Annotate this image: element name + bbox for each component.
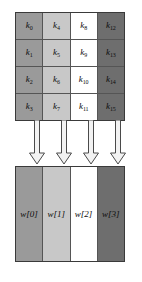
down-arrow-icon bbox=[82, 120, 100, 166]
key-cell-k1: k1 bbox=[16, 40, 42, 67]
key-cell-label: k3 bbox=[26, 102, 33, 112]
key-matrix-column-0: k0 k1 k2 k3 bbox=[16, 13, 43, 120]
key-cell-label: k7 bbox=[53, 102, 60, 112]
key-cell-label: k14 bbox=[106, 75, 116, 85]
key-cell-k9: k9 bbox=[71, 40, 97, 67]
key-matrix-column-2: k8 k9 k10 k11 bbox=[71, 13, 98, 120]
key-cell-label: k10 bbox=[79, 75, 89, 85]
key-cell-label: k0 bbox=[26, 21, 33, 31]
word-column-w0: w[0] bbox=[16, 167, 43, 261]
key-cell-label: k1 bbox=[26, 48, 33, 58]
key-cell-k12: k12 bbox=[98, 13, 124, 40]
arrow-band bbox=[15, 120, 125, 166]
word-column-w1: w[1] bbox=[43, 167, 70, 261]
key-cell-label: k6 bbox=[53, 75, 60, 85]
key-cell-k4: k4 bbox=[43, 13, 69, 40]
key-matrix-column-3: k12 k13 k14 k15 bbox=[98, 13, 124, 120]
key-cell-label: k13 bbox=[106, 48, 116, 58]
key-cell-k2: k2 bbox=[16, 67, 42, 94]
key-cell-k14: k14 bbox=[98, 67, 124, 94]
word-label: w[1] bbox=[48, 210, 66, 219]
key-cell-k13: k13 bbox=[98, 40, 124, 67]
word-label: w[2] bbox=[75, 210, 93, 219]
key-word-bar: w[0] w[1] w[2] w[3] bbox=[15, 166, 125, 262]
key-cell-k3: k3 bbox=[16, 94, 42, 120]
down-arrow-icon bbox=[55, 120, 73, 166]
key-matrix-column-1: k4 k5 k6 k7 bbox=[43, 13, 70, 120]
word-column-w2: w[2] bbox=[71, 167, 98, 261]
key-cell-label: k15 bbox=[106, 102, 116, 112]
key-cell-label: k11 bbox=[79, 102, 88, 112]
key-cell-k15: k15 bbox=[98, 94, 124, 120]
key-cell-k7: k7 bbox=[43, 94, 69, 120]
word-label: w[0] bbox=[20, 210, 38, 219]
key-cell-k10: k10 bbox=[71, 67, 97, 94]
word-column-w3: w[3] bbox=[98, 167, 124, 261]
key-cell-label: k2 bbox=[26, 75, 33, 85]
key-cell-k5: k5 bbox=[43, 40, 69, 67]
key-cell-k11: k11 bbox=[71, 94, 97, 120]
key-cell-k0: k0 bbox=[16, 13, 42, 40]
down-arrow-icon bbox=[109, 120, 127, 166]
word-label: w[3] bbox=[102, 210, 120, 219]
key-cell-label: k8 bbox=[80, 21, 87, 31]
key-cell-label: k12 bbox=[106, 21, 116, 31]
key-cell-label: k5 bbox=[53, 48, 60, 58]
key-byte-matrix: k0 k1 k2 k3 k4 k5 k6 k7 bbox=[15, 12, 125, 121]
key-cell-label: k9 bbox=[80, 48, 87, 58]
key-cell-k6: k6 bbox=[43, 67, 69, 94]
down-arrow-icon bbox=[28, 120, 46, 166]
key-cell-k8: k8 bbox=[71, 13, 97, 40]
key-expansion-figure: k0 k1 k2 k3 k4 k5 k6 k7 bbox=[0, 0, 142, 282]
key-cell-label: k4 bbox=[53, 21, 60, 31]
